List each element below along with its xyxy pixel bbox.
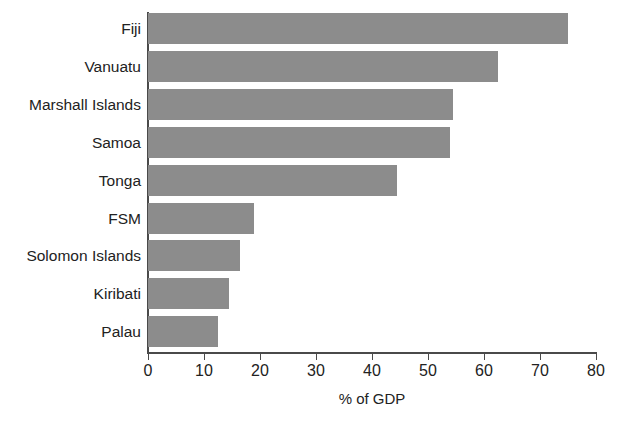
category-label: Samoa [0,127,141,158]
x-axis-tick-label: 40 [352,362,392,380]
category-label: Solomon Islands [0,240,141,271]
x-axis-tick-label: 20 [240,362,280,380]
x-axis-tick [260,353,261,360]
x-axis-tick-label: 80 [576,362,616,380]
bar [148,240,240,271]
category-label: Palau [0,316,141,347]
category-label: Fiji [0,13,141,44]
x-axis-tick-label: 30 [296,362,336,380]
x-axis-tick [148,353,149,360]
bar [148,316,218,347]
bar-fill [148,89,453,120]
x-axis-tick [596,353,597,360]
bar-fill [148,240,240,271]
x-axis-tick [316,353,317,360]
x-axis-title: % of GDP [148,390,596,407]
bar [148,89,453,120]
x-axis-tick [540,353,541,360]
bar-fill [148,316,218,347]
bar-chart: FijiVanuatuMarshall IslandsSamoaTongaFSM… [0,0,617,423]
bar-fill [148,165,397,196]
bar [148,127,450,158]
bar [148,278,229,309]
bar-fill [148,278,229,309]
x-axis-tick-label: 50 [408,362,448,380]
x-axis-tick [428,353,429,360]
bar-fill [148,203,254,234]
bar [148,203,254,234]
category-label: FSM [0,203,141,234]
x-axis-tick-label: 10 [184,362,224,380]
category-label: Vanuatu [0,51,141,82]
bar [148,13,568,44]
category-label: Marshall Islands [0,89,141,120]
bar-fill [148,127,450,158]
category-label: Tonga [0,165,141,196]
bar-fill [148,51,498,82]
bar [148,165,397,196]
x-axis-tick [204,353,205,360]
bar [148,51,498,82]
x-axis-tick-label: 60 [464,362,504,380]
x-axis-tick-label: 70 [520,362,560,380]
bar-fill [148,13,568,44]
category-label: Kiribati [0,278,141,309]
x-axis-tick-label: 0 [128,362,168,380]
x-axis-tick [484,353,485,360]
x-axis-tick [372,353,373,360]
